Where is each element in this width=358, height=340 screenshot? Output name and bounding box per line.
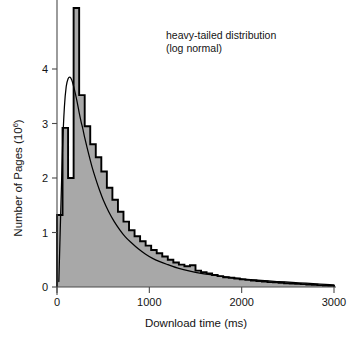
y-axis-title-tail: ): [12, 119, 24, 123]
x-tick-label: 1000: [137, 296, 161, 308]
distribution-label-line1: heavy-tailed distribution: [166, 29, 276, 41]
y-axis-ticks: 01234: [42, 63, 57, 293]
x-axis-ticks: 0100020003000: [54, 287, 346, 308]
y-tick-label: 1: [42, 227, 48, 239]
x-tick-label: 0: [54, 296, 60, 308]
y-axis-title: Number of Pages (106): [11, 119, 24, 236]
y-tick-label: 0: [42, 281, 48, 293]
y-axis-title-main: Number of Pages (10: [12, 127, 24, 236]
y-tick-label: 4: [42, 63, 48, 75]
distribution-label-line2: (log normal): [166, 42, 222, 54]
x-tick-label: 2000: [229, 296, 253, 308]
chart-plot-area: 01234 0100020003000 Download time (ms) N…: [0, 0, 358, 340]
chart-figure: 01234 0100020003000 Download time (ms) N…: [0, 0, 358, 340]
x-axis-title: Download time (ms): [145, 317, 247, 329]
x-tick-label: 3000: [322, 296, 346, 308]
y-tick-label: 2: [42, 172, 48, 184]
y-tick-label: 3: [42, 118, 48, 130]
